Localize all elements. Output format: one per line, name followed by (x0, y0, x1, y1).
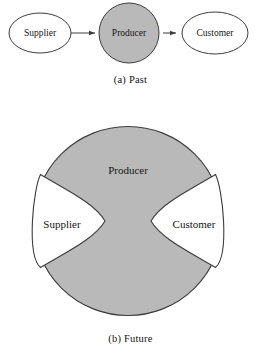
past-node-customer-label: Customer (197, 28, 235, 38)
figure-root: Supplier Producer Customer (a) Past Prod… (0, 0, 261, 353)
future-supplier-label: Supplier (43, 218, 81, 230)
future-diagram: Producer Supplier Customer (0, 104, 261, 329)
past-node-supplier-label: Supplier (24, 28, 57, 38)
caption-past: (a) Past (0, 74, 261, 85)
panel-future: Producer Supplier Customer (0, 104, 261, 329)
future-customer-label: Customer (173, 218, 216, 230)
future-producer-label: Producer (108, 164, 148, 176)
caption-future: (b) Future (0, 333, 261, 344)
past-node-producer-label: Producer (112, 28, 147, 38)
